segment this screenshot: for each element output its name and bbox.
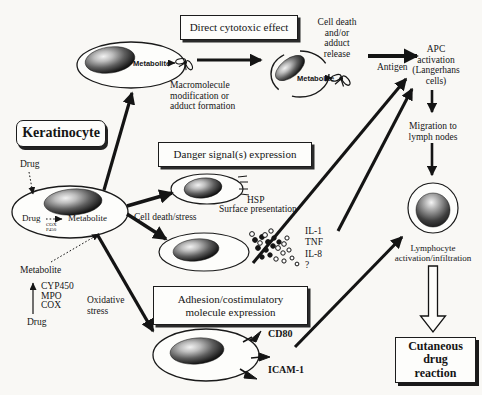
surface-presentation-label: Surface presentation — [219, 204, 297, 215]
enzymes-left-label: CYP450 MPO COX — [41, 282, 74, 311]
cell-death-stress-label: Cell death/stress — [134, 212, 197, 223]
direct-cytotoxic-box: Direct cytotoxic effect — [180, 15, 298, 40]
cell-death-release-label: Cell death and/or adduct release — [308, 17, 366, 60]
drug-bottom-label: Drug — [27, 317, 47, 328]
danger-signals-box: Danger signal(s) expression — [158, 142, 312, 167]
keratinocyte-cell — [12, 186, 128, 238]
nucleus — [416, 193, 450, 227]
arrow-keratinocyte-to-metabolite-cell — [104, 93, 132, 190]
arrow-cytokines-to-apc — [253, 79, 406, 263]
macromolecule-label: Macromolecule modification or adduct for… — [170, 80, 235, 112]
arrow-to-hsp-cell — [127, 193, 172, 206]
hsp-cell — [171, 174, 249, 204]
metabolite-top-label: Metabolite — [133, 59, 170, 68]
metabolite-dying-label: Metabolite — [297, 74, 334, 83]
arrow-drug-enters-cell — [29, 172, 33, 194]
adhesion-box: Adhesion/costimulatory molecule expressi… — [153, 286, 308, 325]
keratinocyte-box: Keratinocyte — [16, 120, 106, 147]
lymphocyte-cell — [408, 183, 458, 233]
arrow-il-to-apc — [338, 89, 412, 231]
drug-inside-label: Drug — [22, 213, 41, 223]
cutaneous-reaction-box: Cutaneous drug reaction — [395, 337, 476, 383]
migration-label: Migration to lymph nodes — [401, 121, 465, 142]
hollow-arrow-to-outcome — [421, 266, 446, 332]
cytokine-cell — [159, 233, 249, 271]
pathway-diagram: Direct cytotoxic effect Danger signal(s)… — [0, 0, 482, 395]
cd80-label: CD80 — [268, 328, 292, 339]
lymphocyte-label: Lymphocyte activation/infiltration — [393, 243, 473, 263]
cytokine-names-label: IL-1 TNF IL-8 ? — [305, 226, 323, 272]
oxidative-stress-label: Oxidative stress — [87, 295, 124, 316]
adhesion-cell — [153, 329, 270, 381]
drug-top-label: Drug — [20, 159, 40, 170]
icam1-label: ICAM-1 — [268, 364, 304, 375]
apc-activation-label: APC activation (Langerhans cells) — [402, 44, 470, 87]
enzymes-inside-label: COX P450 — [46, 222, 57, 233]
metabolite-inside-label: Metabolite — [68, 213, 107, 223]
metabolite-left-label: Metabolite — [20, 265, 61, 276]
